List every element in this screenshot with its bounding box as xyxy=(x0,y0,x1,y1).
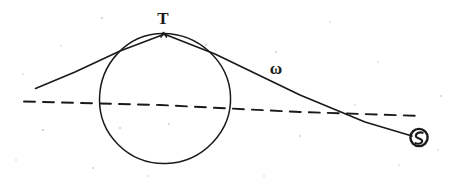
right-tangent-line xyxy=(164,34,412,136)
apex-label: T xyxy=(157,9,169,28)
source-circled-symbol xyxy=(410,129,427,146)
dashed-axis-line xyxy=(24,102,422,117)
diagram-svg: T ω xyxy=(0,0,461,190)
left-tangent-line xyxy=(36,35,164,89)
diagram-canvas: T ω xyxy=(0,0,461,190)
paper-speckles xyxy=(15,17,442,177)
ray-label: ω xyxy=(270,59,282,78)
